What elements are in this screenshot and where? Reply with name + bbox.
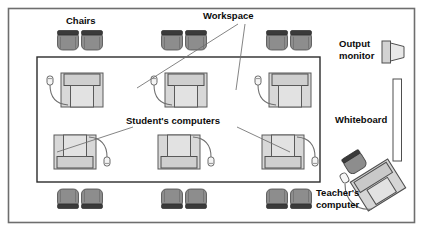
chair (58, 189, 79, 209)
label-chairs: Chairs (66, 15, 96, 26)
chair (291, 189, 312, 209)
chair (58, 31, 79, 51)
chair (267, 31, 288, 51)
chair (162, 31, 183, 51)
chair (82, 31, 103, 51)
label-students-computers: Student's computers (126, 115, 220, 126)
chair (291, 31, 312, 51)
student-computer-row-top (47, 73, 311, 107)
whiteboard-object (393, 79, 402, 161)
label-teachers-computer-line1: Teacher's (316, 187, 359, 198)
classroom-diagram: Chairs Workspace Student's computers Out… (0, 0, 423, 231)
label-teachers-computer-line2: computer (316, 199, 360, 210)
label-output-monitor-line1: Output (339, 38, 371, 49)
chair (267, 189, 288, 209)
label-workspace: Workspace (203, 10, 254, 21)
label-output-monitor-line2: monitor (339, 50, 375, 61)
label-whiteboard: Whiteboard (335, 114, 387, 125)
chair (82, 189, 103, 209)
chair (162, 189, 183, 209)
chair (186, 31, 207, 51)
chair (186, 189, 207, 209)
